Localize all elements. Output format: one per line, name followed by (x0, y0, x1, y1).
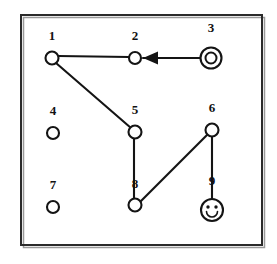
node-6-label: 6 (209, 100, 216, 115)
smiley-left-eye (206, 205, 209, 208)
node-5[interactable]: 5 (129, 102, 142, 139)
graph-diagram-svg: 123456789 (0, 0, 277, 264)
node-8-label: 8 (132, 176, 139, 191)
figure-canvas: 123456789 (0, 0, 277, 264)
node-6[interactable]: 6 (206, 100, 219, 137)
node-4-label: 4 (50, 103, 57, 118)
node-3-inner-circle (206, 53, 217, 64)
arrowhead-group (143, 52, 158, 65)
node-1-label: 1 (49, 28, 56, 43)
edge-1-to-2 (58, 56, 129, 57)
node-5-label: 5 (132, 102, 139, 117)
node-4-circle (47, 127, 59, 139)
smiley-right-eye (214, 205, 217, 208)
node-2-circle (129, 52, 141, 64)
node-1-circle (46, 52, 59, 65)
node-3-label: 3 (208, 20, 215, 35)
edge-1-to-5 (56, 63, 131, 128)
node-6-circle (206, 124, 219, 137)
node-8-circle (129, 199, 142, 212)
node-1[interactable]: 1 (46, 28, 59, 65)
node-2-label: 2 (132, 28, 139, 43)
node-9-label: 9 (209, 173, 216, 188)
node-5-circle (129, 126, 142, 139)
node-2[interactable]: 2 (129, 28, 141, 64)
node-7[interactable]: 7 (47, 177, 59, 213)
node-4[interactable]: 4 (47, 103, 59, 139)
node-7-circle (47, 201, 59, 213)
node-7-label: 7 (50, 177, 57, 192)
node-3[interactable]: 3 (201, 20, 222, 69)
edge-8-to-6 (140, 135, 207, 202)
arrowhead-left (143, 52, 158, 65)
